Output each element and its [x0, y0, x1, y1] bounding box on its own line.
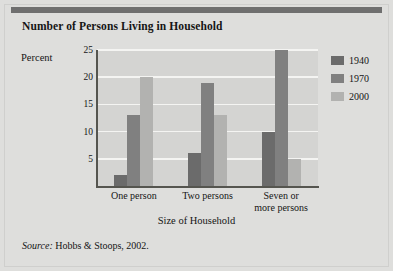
legend-swatch-1940: [331, 56, 344, 65]
chart-legend: 194019702000: [331, 53, 369, 107]
source-label: Source:: [22, 240, 53, 251]
bar-1940-one-person: [114, 175, 127, 186]
chart-title: Number of Persons Living in Household: [22, 20, 223, 32]
x-axis-line: [96, 186, 319, 188]
y-axis-tick-label: 10: [84, 127, 94, 137]
bar-2000-one-person: [140, 77, 153, 186]
bar-2000-two-persons: [214, 115, 227, 186]
y-axis-tick-label: 25: [84, 45, 94, 55]
bar-2000-seven-or-more-persons: [288, 159, 301, 186]
legend-label-2000: 2000: [349, 91, 369, 102]
y-axis-tick-label: 20: [84, 72, 94, 82]
legend-label-1940: 1940: [349, 55, 369, 66]
legend-label-1970: 1970: [349, 73, 369, 84]
plot-area: 510152025: [97, 50, 318, 186]
legend-item-1970: 1970: [331, 71, 369, 86]
header-rule: [11, 7, 382, 13]
chart-figure: Number of Persons Living in Household Pe…: [0, 0, 393, 271]
bar-group: [244, 50, 318, 186]
legend-item-1940: 1940: [331, 53, 369, 68]
source-citation: Hobbs & Stoops, 2002.: [53, 240, 149, 251]
bar-1970-one-person: [127, 115, 140, 186]
bar-1940-two-persons: [188, 153, 201, 186]
y-axis-line: [96, 50, 98, 187]
bar-1940-seven-or-more-persons: [262, 132, 275, 186]
bar-group: [171, 50, 245, 186]
y-axis-title: Percent: [21, 52, 53, 63]
x-axis-category-label: Two persons: [171, 190, 245, 202]
y-axis-tick-label: 15: [84, 99, 94, 109]
x-axis-category-label: Seven or more persons: [244, 190, 318, 213]
bar-1970-two-persons: [201, 83, 214, 186]
bar-1970-seven-or-more-persons: [275, 50, 288, 186]
legend-swatch-2000: [331, 92, 344, 101]
legend-swatch-1970: [331, 74, 344, 83]
x-axis-title: Size of Household: [0, 215, 393, 226]
source-note: Source: Hobbs & Stoops, 2002.: [22, 240, 149, 251]
legend-item-2000: 2000: [331, 89, 369, 104]
bar-group: [97, 50, 171, 186]
x-axis-category-label: One person: [97, 190, 171, 202]
y-axis-tick-label: 5: [88, 154, 93, 164]
